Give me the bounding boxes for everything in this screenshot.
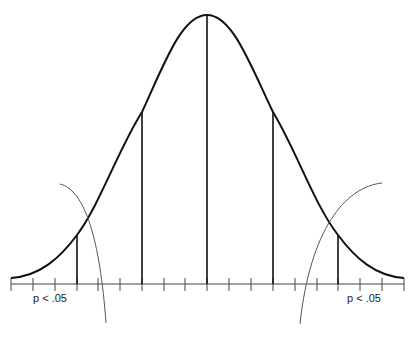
- sd-lines: [77, 15, 338, 284]
- left-tail-label: p < .05: [33, 292, 67, 304]
- right-tail-label: p < .05: [347, 292, 381, 304]
